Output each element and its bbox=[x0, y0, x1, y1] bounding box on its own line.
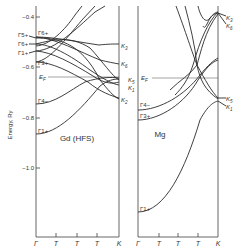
mg-fermi-label: EF bbox=[141, 75, 148, 83]
gd-gamma1p-label: Γ1+ bbox=[18, 50, 29, 56]
mg-x-t1: T bbox=[157, 240, 162, 247]
gd-k3-label: K3 bbox=[121, 43, 128, 51]
gd-x-t2: T bbox=[75, 240, 80, 247]
mg-k6-label: K6 bbox=[226, 23, 233, 31]
y-tick-m10: −1.0 bbox=[22, 165, 35, 171]
gd-k1-label: K1 bbox=[128, 85, 135, 93]
gd-k5-label: K5 bbox=[128, 77, 135, 85]
y-tick-m06: −0.6 bbox=[22, 64, 35, 70]
gd-gamma5p-label: Γ5+ bbox=[18, 32, 29, 38]
mg-k3-label: K3 bbox=[226, 15, 233, 23]
gd-fermi-label: EF bbox=[39, 74, 46, 82]
gd-x-t3: T bbox=[95, 240, 100, 247]
mg-panel: Γ T T T K EF Γ4− Γ3+ Γ1+ K3 K6 K5 K1 Mg bbox=[136, 6, 233, 247]
gd-x-k: K bbox=[117, 240, 122, 247]
gd-k2-label: K2 bbox=[121, 97, 128, 105]
band-structure-figure: Energy, Ry −0.4 −0.6 −0.8 −1.0 Γ T T T K… bbox=[0, 0, 244, 251]
mg-x-t3: T bbox=[196, 240, 201, 247]
gd-panel: −0.4 −0.6 −0.8 −1.0 Γ T T T K EF Γ6+ Γ5+… bbox=[18, 6, 135, 247]
gd-k6-label: K6 bbox=[121, 61, 128, 69]
gd-panel-title: Gd (HFS) bbox=[60, 134, 95, 143]
mg-k5-label: K5 bbox=[226, 96, 233, 104]
gd-gamma6p-left-label: Γ6+ bbox=[18, 41, 29, 47]
mg-gamma3p-label: Γ3+ bbox=[140, 113, 151, 119]
y-tick-m08: −0.8 bbox=[22, 115, 35, 121]
gd-x-t1: T bbox=[54, 240, 59, 247]
mg-panel-title: Mg bbox=[154, 130, 165, 139]
mg-x-k: K bbox=[216, 240, 221, 247]
mg-x-t2: T bbox=[176, 240, 181, 247]
gd-x-gamma: Γ bbox=[34, 240, 39, 247]
mg-k1-label: K1 bbox=[226, 104, 233, 112]
mg-gamma4m-label: Γ4− bbox=[140, 102, 151, 108]
y-axis-label: Energy, Ry bbox=[7, 110, 13, 139]
mg-x-gamma: Γ bbox=[136, 240, 141, 247]
y-tick-m04: −0.4 bbox=[22, 14, 35, 20]
gd-gamma6p-label: Γ6+ bbox=[38, 30, 49, 36]
